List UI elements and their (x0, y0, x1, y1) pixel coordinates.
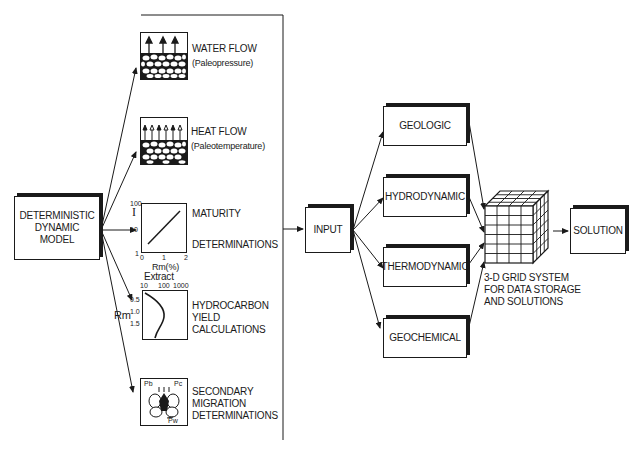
deterministic-dynamic-model-box[interactable]: DETERMINISTIC DYNAMIC MODEL (14, 196, 100, 260)
model-label-line2: DYNAMIC (35, 222, 80, 234)
hydrocarbon-title-line1: HYDROCARBON (192, 300, 269, 312)
maturity-title: MATURITY (192, 208, 241, 220)
yield-x-tick-10: 10 (140, 282, 148, 290)
solution-box[interactable]: SOLUTION (570, 208, 626, 254)
hydrocarbon-title-line3: CALCULATIONS (192, 324, 266, 336)
thermodynamic-label: THERMODYNAMIC (382, 261, 469, 273)
maturity-plot-icon: 100 I 10 1 0 1 2 Rm(%) (125, 200, 191, 272)
grid-caption-line3: AND SOLUTIONS (484, 296, 563, 308)
water-flow-subtitle: (Paleopressure) (192, 57, 253, 69)
water-flow-icon (140, 32, 188, 80)
yield-y-tick-0.5: 0.5 (130, 296, 140, 304)
module-thermodynamic[interactable]: THERMODYNAMIC (383, 247, 467, 287)
maturity-x-tick-2: 2 (184, 254, 188, 262)
hydrodynamic-label: HYDRODYNAMIC (385, 191, 465, 203)
migration-title-line3: DETERMINATIONS (192, 410, 278, 422)
3d-grid-cube-icon (485, 191, 548, 263)
heat-flow-title: HEAT FLOW (191, 126, 247, 138)
hydrocarbon-title-line2: YIELD (192, 312, 220, 324)
maturity-y-tick-10: 10 (130, 226, 138, 234)
yield-y-tick-1.5: 1.5 (130, 320, 140, 328)
maturity-subtitle: DETERMINATIONS (192, 239, 278, 251)
maturity-x-tick-0: 0 (140, 254, 144, 262)
maturity-y-tick-1: 1 (135, 250, 139, 258)
migration-title-line1: SECONDARY (192, 386, 253, 398)
migration-label-pw: Pw (168, 417, 178, 425)
grid-caption-line2: FOR DATA STORAGE (484, 284, 581, 296)
hydrocarbon-yield-plot-icon: Extract 10 100 1000 0.5 1.0 1.5 (130, 271, 192, 345)
water-flow-title: WATER FLOW (192, 43, 257, 55)
migration-pressure-icon: Pb Pc Pw (140, 378, 188, 426)
migration-title-line2: MIGRATION (192, 398, 246, 410)
yield-x-tick-100: 100 (158, 282, 170, 290)
geochemical-label: GEOCHEMICAL (389, 332, 461, 344)
yield-x-tick-1000: 1000 (173, 282, 189, 290)
module-geologic[interactable]: GEOLOGIC (383, 106, 467, 146)
solution-label: SOLUTION (573, 225, 623, 237)
model-label-line1: DETERMINISTIC (19, 210, 94, 222)
yield-side-label: Rm (114, 309, 131, 321)
grid-caption-line1: 3-D GRID SYSTEM (484, 272, 569, 284)
module-hydrodynamic[interactable]: HYDRODYNAMIC (383, 177, 467, 217)
maturity-y-axis-label: I (132, 206, 136, 218)
heat-flow-icon (140, 117, 188, 165)
yield-y-tick-1.0: 1.0 (130, 308, 140, 316)
migration-label-pc: Pc (174, 380, 182, 388)
geologic-label: GEOLOGIC (399, 120, 451, 132)
migration-label-pb: Pb (144, 380, 153, 388)
heat-flow-subtitle: (Paleotemperature) (191, 140, 265, 152)
input-box[interactable]: INPUT (305, 207, 351, 253)
module-geochemical[interactable]: GEOCHEMICAL (383, 318, 467, 358)
input-label: INPUT (313, 224, 342, 236)
model-label-line3: MODEL (40, 234, 75, 246)
